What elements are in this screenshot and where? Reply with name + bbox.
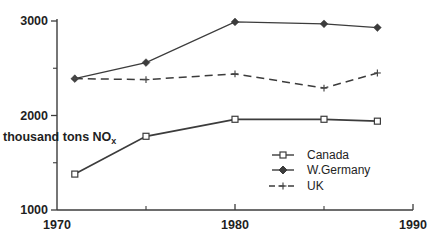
- x-tick-label: 1980: [221, 218, 249, 232]
- legend-item-wgermany: W.Germany: [268, 163, 370, 179]
- series-line-w-germany: [75, 22, 378, 79]
- x-tick-label: 1970: [43, 218, 71, 232]
- legend-label-uk: UK: [307, 179, 324, 193]
- uk-plus-marker-icon: [268, 180, 298, 192]
- y-tick-label: 2000: [20, 109, 48, 123]
- legend-item-canada: Canada: [268, 147, 370, 163]
- marker-square-canada: [374, 118, 380, 124]
- y-axis-title-text: thousand tons NO: [3, 130, 111, 144]
- y-tick-label: 1000: [20, 203, 48, 217]
- legend-label-wgermany: W.Germany: [307, 163, 370, 177]
- y-axis-title-subscript: x: [111, 136, 116, 146]
- y-axis-title: thousand tons NOx: [3, 130, 116, 146]
- chart-canvas: 100020003000197019801990: [0, 0, 432, 244]
- marker-diamond-w-germany: [320, 20, 328, 28]
- y-tick-label: 3000: [20, 14, 48, 28]
- marker-square-canada: [232, 116, 238, 122]
- nox-emissions-chart: 100020003000197019801990 thousand tons N…: [0, 0, 432, 244]
- marker-diamond-w-germany: [142, 59, 150, 67]
- legend-label-canada: Canada: [307, 148, 349, 162]
- legend-item-uk: UK: [268, 178, 370, 194]
- legend: Canada W.Germany UK: [268, 147, 370, 194]
- wgermany-diamond-marker-icon: [268, 164, 298, 176]
- series-line-uk: [75, 73, 378, 88]
- canada-square-marker-icon: [268, 149, 298, 161]
- marker-diamond-w-germany: [231, 18, 239, 26]
- marker-square-canada: [72, 171, 78, 177]
- x-tick-label: 1990: [399, 218, 427, 232]
- marker-diamond-w-germany: [374, 24, 382, 32]
- marker-square-canada: [143, 133, 149, 139]
- marker-square-canada: [321, 116, 327, 122]
